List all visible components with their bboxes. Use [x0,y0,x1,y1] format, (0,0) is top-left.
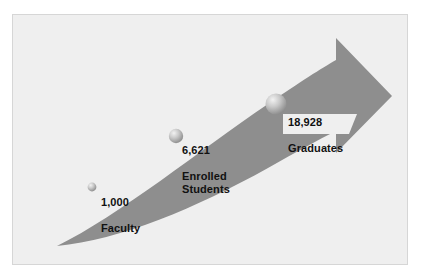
callout-graduates: 18,928 Graduates [288,103,343,168]
callout-graduates-value: 18,928 [288,116,343,129]
callout-enrolled-value: 6,621 [182,144,230,157]
callout-faculty-value: 1,000 [101,196,140,209]
faculty-marker [88,183,97,192]
callout-enrolled-label: Enrolled Students [182,170,230,196]
growth-infographic: 1,000 Faculty 6,621 Enrolled Students 18… [0,0,422,280]
graduates-marker [266,94,287,115]
callout-enrolled: 6,621 Enrolled Students [182,131,230,209]
callout-faculty-label: Faculty [101,222,140,235]
callout-graduates-label: Graduates [288,142,343,155]
callout-faculty: 1,000 Faculty [101,183,140,248]
